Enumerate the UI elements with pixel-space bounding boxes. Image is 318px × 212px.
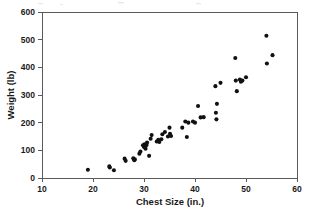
data-point bbox=[143, 147, 147, 151]
data-point bbox=[145, 141, 149, 145]
data-point bbox=[124, 159, 128, 163]
data-point bbox=[193, 121, 197, 125]
data-point bbox=[159, 137, 163, 141]
y-tick-label: 100 bbox=[21, 145, 35, 155]
y-tick-label: 400 bbox=[21, 62, 35, 72]
data-point bbox=[215, 102, 219, 106]
scatter-chart-figure: 0100200300400500600 102030405060 Chest S… bbox=[0, 0, 318, 212]
x-tick-label: 10 bbox=[37, 184, 47, 194]
scan-speck bbox=[118, 2, 124, 3]
scan-speck bbox=[38, 3, 43, 4]
x-tick-label: 50 bbox=[241, 184, 251, 194]
data-point bbox=[244, 75, 248, 79]
y-tick-label: 300 bbox=[21, 90, 35, 100]
data-point bbox=[240, 79, 244, 83]
data-point bbox=[233, 56, 237, 60]
data-point bbox=[147, 154, 151, 158]
data-point bbox=[167, 126, 171, 130]
data-point bbox=[196, 104, 200, 108]
data-point bbox=[214, 117, 218, 121]
x-tick-label: 30 bbox=[139, 184, 149, 194]
x-axis-title: Chest Size (in.) bbox=[136, 196, 204, 207]
y-tick-label: 200 bbox=[21, 118, 35, 128]
scan-speck bbox=[196, 3, 201, 4]
data-point bbox=[218, 81, 222, 85]
x-tick-label: 20 bbox=[88, 184, 98, 194]
data-point bbox=[86, 168, 90, 172]
data-point bbox=[149, 137, 153, 141]
x-tick-label: 40 bbox=[190, 184, 200, 194]
y-tick-label: 0 bbox=[30, 173, 35, 183]
y-tick-label: 500 bbox=[21, 35, 35, 45]
data-point bbox=[133, 157, 137, 161]
data-point bbox=[138, 149, 142, 153]
data-point bbox=[180, 126, 184, 130]
data-point bbox=[202, 115, 206, 119]
data-point bbox=[214, 111, 218, 115]
data-point bbox=[108, 165, 112, 169]
data-point bbox=[185, 135, 189, 139]
y-axis-title: Weight (lb) bbox=[5, 71, 16, 120]
data-point bbox=[163, 130, 167, 134]
data-point bbox=[235, 89, 239, 93]
data-point bbox=[265, 61, 269, 65]
data-point bbox=[169, 134, 173, 138]
data-point bbox=[213, 84, 217, 88]
x-tick-label: 60 bbox=[292, 184, 302, 194]
data-point bbox=[112, 168, 116, 172]
scan-speck bbox=[60, 4, 63, 5]
chart-background bbox=[0, 0, 318, 212]
data-point bbox=[234, 79, 238, 83]
data-point bbox=[264, 34, 268, 38]
chart-canvas: 0100200300400500600 102030405060 Chest S… bbox=[0, 0, 318, 212]
data-point bbox=[186, 121, 190, 125]
y-tick-label: 600 bbox=[21, 7, 35, 17]
data-point bbox=[150, 133, 154, 137]
data-point bbox=[270, 53, 274, 57]
